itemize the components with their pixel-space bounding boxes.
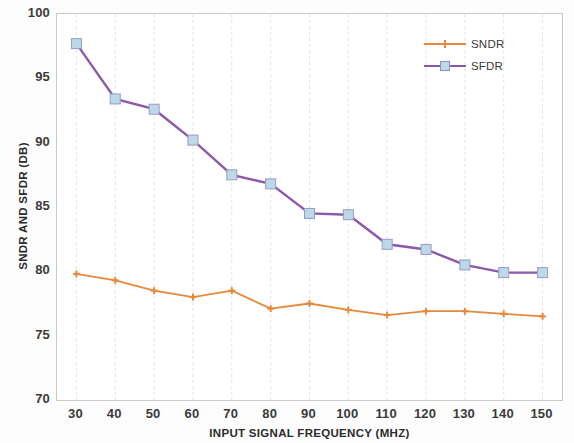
x-axis-tick-label: 150 (522, 406, 562, 421)
data-point-sfdr[interactable] (499, 268, 509, 278)
y-axis-tick-label: 80 (8, 262, 50, 277)
legend-item-sndr[interactable]: SNDR (424, 33, 544, 55)
data-point-sfdr[interactable] (421, 244, 431, 254)
x-axis-tick-label: 120 (405, 406, 445, 421)
square-marker-icon (440, 61, 450, 71)
legend-swatch-sndr (424, 38, 466, 50)
data-point-sfdr[interactable] (460, 260, 470, 270)
y-axis-tick-label: 100 (8, 5, 50, 20)
chart-container: 1009590858075703040506070809010011012013… (0, 0, 574, 443)
data-point-sndr[interactable] (423, 308, 430, 315)
y-axis-title: SNDR AND SFDR (DB) (17, 91, 29, 321)
chart-legend: SNDR SFDR (424, 33, 544, 77)
data-point-sfdr[interactable] (110, 94, 120, 104)
x-axis-tick-label: 100 (327, 406, 367, 421)
data-point-sndr[interactable] (267, 305, 274, 312)
x-axis-tick-label: 30 (55, 406, 95, 421)
x-axis-tick-label: 90 (289, 406, 329, 421)
y-axis-tick-label: 95 (8, 69, 50, 84)
x-axis-tick-label: 70 (211, 406, 251, 421)
data-point-sfdr[interactable] (538, 268, 548, 278)
data-point-sfdr[interactable] (149, 104, 159, 114)
legend-label-sfdr: SFDR (471, 60, 503, 72)
data-point-sfdr[interactable] (71, 39, 81, 49)
y-axis-tick-label: 90 (8, 134, 50, 149)
x-axis-tick-label: 60 (172, 406, 212, 421)
data-point-sfdr[interactable] (382, 239, 392, 249)
data-point-sndr[interactable] (539, 313, 546, 320)
x-axis-tick-label: 50 (133, 406, 173, 421)
x-axis-tick-label: 140 (483, 406, 523, 421)
data-point-sndr[interactable] (384, 312, 391, 319)
x-axis-tick-label: 110 (366, 406, 406, 421)
legend-label-sndr: SNDR (471, 38, 504, 50)
x-axis-tick-label: 40 (94, 406, 134, 421)
y-axis-tick-label: 70 (8, 391, 50, 406)
data-point-sfdr[interactable] (188, 135, 198, 145)
data-point-sndr[interactable] (306, 300, 313, 307)
legend-swatch-sfdr (424, 60, 466, 72)
data-point-sndr[interactable] (461, 308, 468, 315)
data-point-sndr[interactable] (112, 277, 119, 284)
data-point-sfdr[interactable] (343, 210, 353, 220)
data-point-sfdr[interactable] (266, 179, 276, 189)
data-point-sndr[interactable] (73, 270, 80, 277)
x-axis-tick-label: 80 (250, 406, 290, 421)
x-axis-title: INPUT SIGNAL FREQUENCY (MHZ) (56, 427, 563, 439)
data-point-sfdr[interactable] (227, 170, 237, 180)
cross-marker-icon (441, 40, 449, 48)
y-axis-tick-label: 75 (8, 327, 50, 342)
data-point-sndr[interactable] (500, 310, 507, 317)
data-point-sndr[interactable] (189, 294, 196, 301)
legend-item-sfdr[interactable]: SFDR (424, 55, 544, 77)
data-point-sndr[interactable] (345, 306, 352, 313)
data-point-sndr[interactable] (228, 287, 235, 294)
y-axis-tick-label: 85 (8, 198, 50, 213)
data-point-sndr[interactable] (151, 287, 158, 294)
x-axis-tick-label: 130 (444, 406, 484, 421)
data-point-sfdr[interactable] (305, 208, 315, 218)
